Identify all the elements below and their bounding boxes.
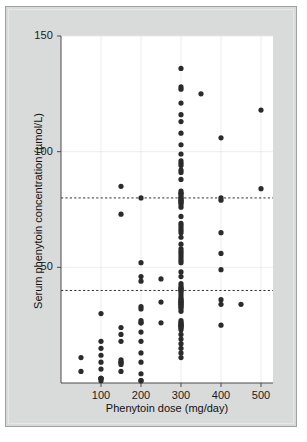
data-point [178,112,183,117]
data-point [178,119,183,124]
data-point [218,267,223,272]
data-point [138,260,143,265]
data-point [178,177,183,182]
data-point [178,131,183,136]
data-point [178,66,183,71]
data-point [118,184,123,189]
data-point [178,100,183,105]
scatter-plot-svg [0,0,307,442]
data-point [138,350,143,355]
data-point [178,242,183,247]
data-point [118,325,123,330]
data-point [78,355,83,360]
reference-lines-group [61,198,273,291]
data-point [138,339,143,344]
data-point [258,186,263,191]
data-point [118,369,123,374]
data-point [218,230,223,235]
data-point [178,230,183,235]
data-point [178,274,183,279]
data-point [98,353,103,358]
data-point [178,269,183,274]
data-point [218,135,223,140]
data-point [178,355,183,360]
data-point [218,323,223,328]
data-point [178,346,183,351]
x-tick-label: 500 [241,389,281,401]
data-point [218,198,223,203]
data-point [98,311,103,316]
data-point [118,332,123,337]
data-point [178,332,183,337]
data-point [118,339,123,344]
x-tick-label: 200 [121,389,161,401]
data-point [178,341,183,346]
data-point [178,327,183,332]
x-tick-label: 300 [161,389,201,401]
data-point [98,346,103,351]
data-point [238,302,243,307]
data-point [258,107,263,112]
x-tick-label: 400 [201,389,241,401]
data-point [138,320,143,325]
data-point [138,371,143,376]
data-point [138,330,143,335]
data-point [118,362,123,367]
data-point [178,235,183,240]
figure-container: 50100150 100200300400500 Phenytoin dose … [0,0,307,442]
data-point [98,339,103,344]
data-point [98,360,103,365]
data-point [198,91,203,96]
data-point [98,367,103,372]
gridlines-group [61,36,273,383]
data-point [158,276,163,281]
data-point [218,251,223,256]
data-point [138,378,143,383]
data-point [138,279,143,284]
data-point [178,170,183,175]
x-axis-label: Phenytoin dose (mg/day) [61,402,273,414]
data-point [178,309,183,314]
axis-ticks-group [57,36,261,387]
x-tick-label: 100 [81,389,121,401]
data-point [158,320,163,325]
data-point [218,297,223,302]
data-point [218,302,223,307]
axis-lines-group [61,36,273,383]
data-point [178,87,183,92]
data-point [178,205,183,210]
data-point [138,274,143,279]
data-point [178,214,183,219]
data-point [138,195,143,200]
data-point [98,378,103,383]
data-point [138,360,143,365]
y-axis-label: Serum phenytoin concentration (µmol/L) [32,91,44,331]
data-point [178,163,183,168]
y-tick-label: 150 [19,29,53,41]
data-point [178,336,183,341]
data-point [158,299,163,304]
data-point [178,151,183,156]
data-point [178,142,183,147]
data-point [178,260,183,265]
data-point [118,212,123,217]
data-point [78,369,83,374]
data-point [178,350,183,355]
data-points-group [78,66,263,384]
data-point [138,306,143,311]
